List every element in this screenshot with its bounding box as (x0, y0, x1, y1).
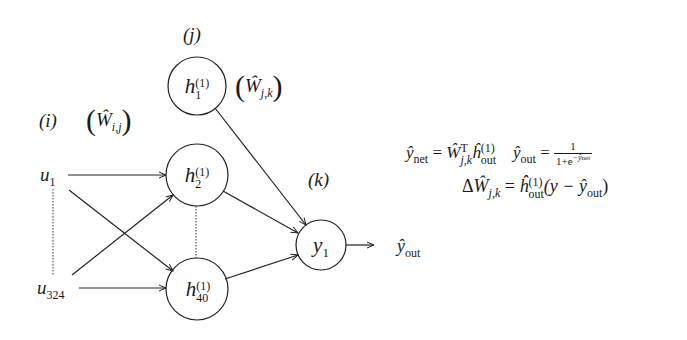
eq-equals: = (505, 176, 515, 196)
den-base: 1+e (556, 154, 573, 166)
eq-dw-close: ) (602, 176, 608, 196)
output-base: y (313, 233, 322, 257)
equation-forward: ŷnet = ŴTj,kĥ(1)out ŷout = 1 1+e−ŷnet (406, 141, 592, 167)
edge-u1-h40 (69, 190, 173, 271)
input-sub: 324 (47, 288, 65, 302)
eq-delta: Δ (462, 176, 474, 196)
weight-label-ij: (Ŵi,j) (86, 105, 132, 135)
edge-h2-y1 (223, 191, 298, 233)
input-base: u (40, 164, 50, 185)
weight-symbol: Ŵ (245, 75, 261, 96)
layer-label-output: (k) (308, 170, 329, 189)
eq-dw-rhs: (y − ŷ (544, 176, 587, 196)
hidden-sub: 40 (196, 292, 210, 304)
hidden-base: h (186, 277, 197, 301)
yhat-sub: out (405, 246, 420, 260)
eq-yout-lhs: ŷ (513, 143, 521, 162)
eq-ynet-w-sup: T (460, 142, 472, 154)
hidden-sub: 1 (195, 89, 209, 101)
output-prediction-label: ŷout (397, 237, 420, 259)
network-diagram (0, 0, 687, 340)
eq-dw-w-sub: j,k (489, 186, 501, 200)
eq-equals: = (540, 143, 550, 162)
weight-symbol: Ŵ (96, 109, 112, 130)
equation-weight-update: ΔŴj,k = ĥ(1)out(y − ŷout) (462, 176, 608, 200)
input-sub: 1 (50, 175, 56, 189)
eq-dw-h: ĥ (519, 176, 528, 196)
yhat-symbol: ŷ (397, 236, 405, 256)
layer-label-input: (i) (39, 111, 57, 130)
eq-ynet-h-sup: (1) (481, 142, 496, 154)
layer-label-hidden: (j) (183, 25, 201, 44)
hidden-label-h40: h(1)40 (186, 279, 211, 304)
eq-equals: = (432, 143, 442, 162)
eq-dw-h-sub: out (528, 188, 543, 200)
input-label-u1: u1 (40, 165, 56, 188)
eq-ynet-w: Ŵ (446, 143, 460, 162)
edge-h1-y1 (215, 108, 306, 225)
eq-ynet-lhs-sub: net (414, 152, 429, 166)
input-label-u324: u324 (37, 278, 65, 301)
output-label-y1: y1 (313, 235, 329, 259)
den-exp: −ŷ (573, 153, 582, 162)
hidden-label-h2: h(1)2 (185, 165, 210, 190)
eq-ynet-w-sub: j,k (460, 154, 472, 166)
eq-dw-w: Ŵ (474, 176, 489, 196)
sigmoid-fraction: 1 1+e−ŷnet (554, 141, 592, 167)
hidden-label-h1: h(1)1 (185, 76, 210, 101)
eq-ynet-h-sub: out (481, 154, 496, 166)
eq-dw-rhs-sub: out (587, 186, 602, 200)
edge-u324-h2 (72, 195, 173, 275)
den-exp-sub: net (582, 154, 591, 162)
eq-ynet-lhs: ŷ (406, 143, 414, 162)
hidden-base: h (185, 163, 196, 187)
input-base: u (37, 277, 47, 298)
eq-yout-lhs-sub: out (521, 152, 536, 166)
output-sub: 1 (322, 245, 329, 260)
edge-h40-y1 (225, 255, 298, 279)
hidden-sub: 2 (195, 178, 209, 190)
hidden-base: h (185, 74, 196, 98)
eq-ynet-h: ĥ (472, 143, 481, 162)
weight-label-jk: (Ŵj,k) (235, 71, 283, 101)
fraction-denominator: 1+e−ŷnet (554, 154, 592, 167)
